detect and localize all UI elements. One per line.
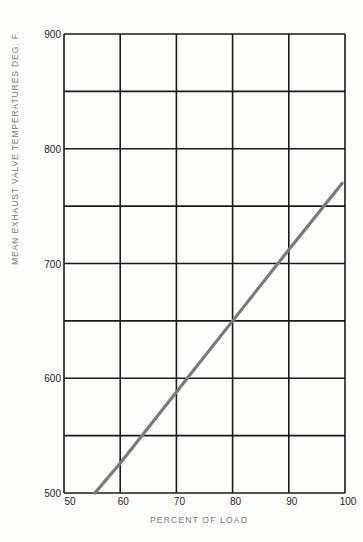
tick-label: 50: [64, 496, 76, 507]
tick-label: 900: [44, 29, 61, 40]
tick-label: 600: [44, 373, 61, 384]
tick-label: 800: [44, 144, 61, 155]
tick-label: 100: [340, 496, 357, 507]
x-axis-label: PERCENT OF LOAD: [0, 515, 363, 525]
tick-label: 90: [286, 496, 298, 507]
y-axis-label: MEAN EXHAUST VALVE TEMPERATURES DEG. F.: [10, 31, 20, 265]
tick-label: 500: [44, 488, 61, 499]
chart-grid: [64, 34, 345, 493]
line-chart: 5060708090100500600700800900: [0, 0, 363, 542]
tick-label: 60: [118, 496, 130, 507]
data-line: [95, 183, 342, 493]
tick-label: 70: [174, 496, 186, 507]
tick-label: 80: [230, 496, 242, 507]
tick-label: 700: [44, 259, 61, 270]
